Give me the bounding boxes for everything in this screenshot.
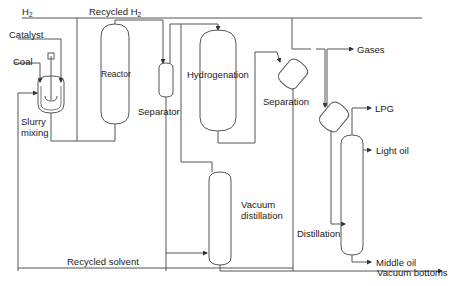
vacuum-distillation-label-line1: Vacuum — [241, 199, 275, 210]
hydrogenation-vessel — [200, 30, 236, 131]
feed-to-vacuum-line — [181, 162, 212, 172]
vacuum-distillation-column — [209, 172, 231, 265]
process-flow-diagram: H2 Recycled H2 Catalyst Coal Slurry mixi… — [0, 0, 452, 286]
catalyst-label: Catalyst — [9, 29, 43, 40]
separation-label: Separation — [263, 96, 309, 107]
lpg-label: LPG — [375, 103, 394, 114]
vacuum-distillation-label-line2: distillation — [241, 210, 283, 221]
light-oil-label: Light oil — [376, 145, 409, 156]
recycled-h2-label: Recycled H2 — [89, 6, 141, 20]
reactor-to-separator — [115, 20, 163, 63]
slurry-mixing-label-line2: mixing — [21, 127, 48, 138]
separation-vessel — [276, 56, 311, 92]
gases-out-line — [327, 49, 353, 107]
feed-to-distillation — [331, 130, 345, 224]
h2-feed-label: H2 — [22, 6, 33, 20]
recycled-solvent-label: Recycled solvent — [67, 256, 139, 267]
second-separator-vessel — [317, 99, 352, 135]
coal-label: Coal — [13, 56, 33, 67]
separator-to-hydrogenation — [170, 24, 218, 63]
hydrogenation-label: Hydrogenation — [187, 69, 249, 80]
separator-vessel — [159, 63, 173, 97]
slurry-mixing-label-line1: Slurry — [21, 116, 46, 127]
distillation-column — [341, 135, 363, 255]
gases-label: Gases — [357, 44, 384, 55]
diagram-lines — [0, 0, 452, 286]
reactor-label: Reactor — [101, 69, 131, 80]
separator-label: Separator — [138, 106, 180, 117]
separation-to-second-separator — [316, 49, 325, 107]
middle-oil-out-line — [352, 255, 371, 262]
separation-top-line — [292, 18, 311, 49]
distillation-label: Distillation — [297, 228, 340, 239]
slurry-to-reactor-line — [51, 113, 115, 141]
lpg-out-line — [352, 108, 371, 135]
vacuum-bottoms-label: Vacuum bottoms — [377, 267, 448, 278]
